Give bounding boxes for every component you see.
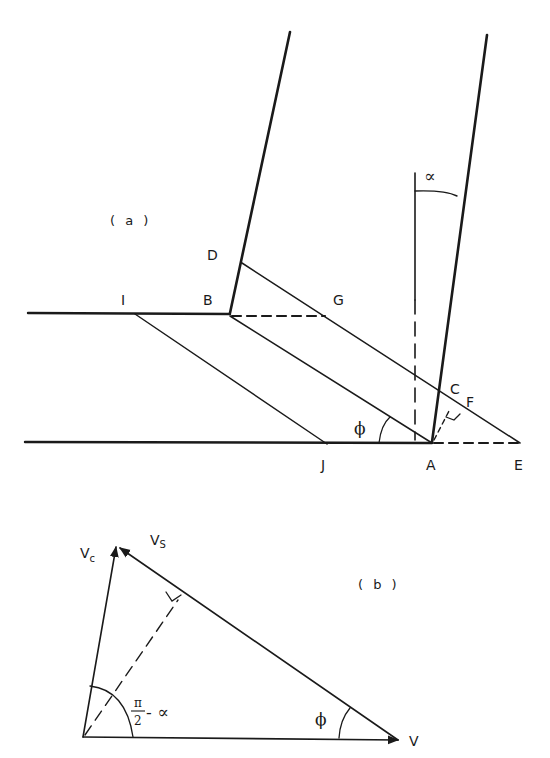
- point-label-d: D: [207, 247, 218, 263]
- point-label-g: G: [333, 292, 344, 308]
- right-angle-marker-f: [446, 414, 460, 420]
- point-label-j: J: [320, 457, 325, 473]
- machined-surface: [25, 442, 432, 443]
- vector-v: [83, 737, 398, 740]
- point-label-f: F: [466, 394, 474, 410]
- chip-back-line: [230, 32, 290, 313]
- vector-v-label: V: [409, 733, 419, 749]
- phi-angle-label-b: ϕ: [315, 709, 327, 729]
- alpha-arc: [415, 191, 457, 196]
- line-de: [242, 263, 520, 443]
- work-surface-top: [28, 313, 230, 314]
- phi-angle-label-a: ϕ: [354, 418, 366, 438]
- orthogonal-cutting-diagram: ( a ) D I B G C F J A E ∝ ϕ ( b ) Vc VS: [0, 0, 550, 758]
- phi-arc-b: [339, 708, 350, 738]
- point-label-a: A: [426, 457, 436, 473]
- shear-line-ij: [135, 314, 327, 444]
- phi-arc-a: [379, 417, 390, 443]
- vector-vc-label: Vc: [80, 545, 95, 564]
- point-label-c: C: [450, 381, 460, 397]
- two-label: 2: [134, 714, 142, 728]
- point-label-b: B: [203, 292, 213, 308]
- panel-a-labels: ( a ) D I B G C F J A E ∝ ϕ: [110, 166, 523, 473]
- shear-plane-ba: [230, 316, 432, 443]
- panel-b: [83, 547, 398, 740]
- panel-b-labels: ( b ) Vc VS V π 2 - ∝ ϕ: [80, 532, 419, 749]
- alpha-angle-label: ∝: [424, 166, 436, 186]
- vector-vs-label: VS: [150, 532, 166, 550]
- pi-over-2-minus-alpha-arc: [90, 686, 133, 737]
- panel-b-label: ( b ): [358, 577, 400, 592]
- point-label-e: E: [514, 457, 523, 473]
- panel-a: [25, 32, 520, 444]
- pi-label: π: [134, 696, 142, 710]
- right-angle-marker-b: [166, 592, 181, 601]
- panel-a-label: ( a ): [110, 213, 151, 228]
- minus-alpha-label: - ∝: [146, 702, 169, 722]
- point-label-i: I: [121, 292, 125, 308]
- vector-vc: [83, 547, 116, 737]
